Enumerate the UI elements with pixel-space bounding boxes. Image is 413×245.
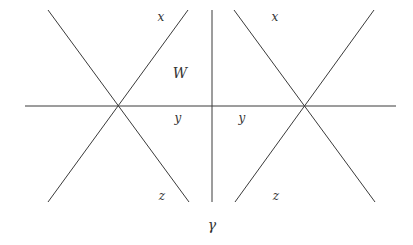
diagram-lines <box>25 10 396 202</box>
label-right-x: x <box>272 11 279 23</box>
label-left-x: x <box>158 11 165 23</box>
label-left-z: z <box>159 190 165 202</box>
label-right-z: z <box>273 190 279 202</box>
label-gamma: γ <box>208 218 216 232</box>
label-W: W <box>173 66 187 80</box>
label-left-y: y <box>175 112 182 124</box>
diagram-canvas <box>0 0 413 245</box>
label-right-y: y <box>239 112 246 124</box>
